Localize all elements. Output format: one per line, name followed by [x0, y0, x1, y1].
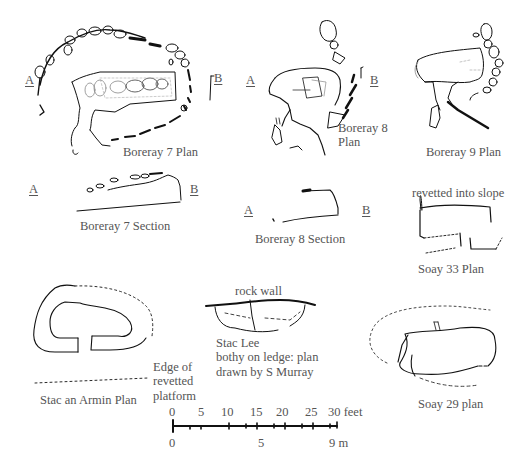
boreray-8-plan-marker-a: A [246, 73, 255, 87]
soay-33-annotation: revetted into slope [412, 186, 504, 200]
boreray-7-plan-drawing [35, 26, 214, 154]
stac-an-armin-plan-label: Stac an Armin Plan [40, 393, 137, 407]
boreray-8-section-drawing [273, 190, 338, 222]
boreray-7-section-label: Boreray 7 Section [80, 219, 170, 233]
boreray-8-plan-marker-b: B [370, 73, 378, 87]
boreray-9-plan-label: Boreray 9 Plan [426, 145, 501, 159]
boreray-8-plan-label: Boreray 8 Plan [338, 121, 388, 150]
boreray-8-section-marker-a: A [244, 203, 253, 217]
boreray-9-plan-drawing [415, 23, 503, 128]
scale-feet-30-label: 30 feet [328, 405, 362, 419]
boreray-8-section-marker-b: B [362, 203, 370, 217]
stac-lee-plan-drawing [206, 300, 315, 332]
soay-33-plan-label: Soay 33 Plan [418, 262, 484, 276]
boreray-7-plan-marker-b: B [214, 71, 222, 85]
scale-metre-0: 0 [169, 436, 175, 450]
stac-lee-rock-wall-annotation: rock wall [235, 284, 282, 298]
scale-metre-5: 5 [258, 436, 264, 450]
stac-an-armin-annotation: Edge of revetted platform [153, 360, 196, 403]
soay-29-plan-label: Soay 29 plan [418, 397, 483, 411]
figure-canvas: A B Boreray 7 Plan A B Boreray 8 Plan Bo… [0, 0, 532, 474]
scale-metre-9-label: 9 m [329, 436, 348, 450]
soay-29-plan-drawing [370, 306, 496, 386]
scale-feet-5: 5 [198, 405, 204, 419]
scale-feet-10: 10 [221, 405, 234, 419]
boreray-7-section-drawing [77, 173, 181, 211]
stac-lee-label: Stac Lee bothy on ledge: plan drawn by S… [216, 336, 318, 379]
stac-an-armin-plan-drawing [34, 285, 153, 383]
boreray-8-section-label: Boreray 8 Section [255, 232, 345, 246]
scale-feet-25: 25 [305, 405, 318, 419]
boreray-7-plan-marker-a: A [25, 73, 34, 87]
boreray-7-section-marker-a: A [29, 182, 38, 196]
boreray-7-section-marker-b: B [190, 182, 198, 196]
scale-feet-20: 20 [276, 405, 289, 419]
scale-feet-15: 15 [250, 405, 263, 419]
boreray-7-plan-label: Boreray 7 Plan [123, 145, 198, 159]
scale-bar-drawing [173, 420, 337, 432]
soay-33-plan-drawing [420, 196, 502, 253]
scale-feet-0: 0 [169, 405, 175, 419]
